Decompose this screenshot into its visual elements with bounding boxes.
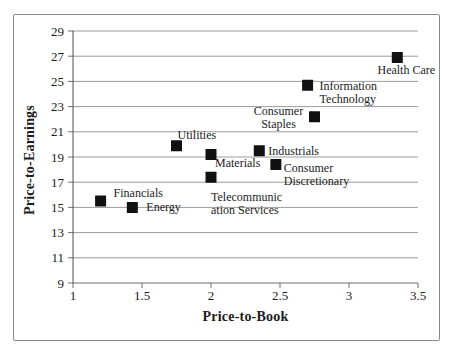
data-point-health-care [392, 52, 403, 63]
data-label-consumer-staples: Staples [261, 117, 296, 131]
x-tick-label: 3.5 [410, 288, 426, 303]
y-axis-title: Price-to-Earnings [22, 105, 38, 215]
x-tick-label: 3 [346, 288, 353, 303]
data-point-consumer-staples [309, 111, 320, 122]
data-label-consumer-discretionary: Consumer [284, 161, 333, 175]
data-label-energy: Energy [146, 200, 180, 214]
data-point-utilities [171, 140, 182, 151]
data-label-information-technology: Information [320, 79, 377, 93]
data-point-information-technology [302, 80, 313, 91]
y-tick-label: 15 [51, 200, 64, 215]
x-tick-label: 1 [70, 288, 77, 303]
data-point-financials [95, 196, 106, 207]
y-tick-label: 17 [51, 175, 65, 190]
data-label-consumer-discretionary: Discretionary [284, 174, 349, 188]
data-label-telecommunication-services: Telecommunic [211, 190, 282, 204]
y-tick-label: 25 [51, 74, 64, 89]
data-point-consumer-discretionary [270, 159, 281, 170]
x-tick-label: 2.5 [272, 288, 288, 303]
data-label-consumer-staples: Consumer [254, 104, 303, 118]
data-label-financials: Financials [114, 186, 164, 200]
data-label-telecommunication-services: ation Services [211, 203, 279, 217]
chart-frame: 91113151719212325272911.522.533.5Financi… [13, 14, 440, 341]
chart-canvas: 91113151719212325272911.522.533.5Financi… [0, 0, 452, 356]
y-tick-label: 21 [51, 124, 64, 139]
x-axis-title: Price-to-Book [73, 309, 418, 325]
y-tick-label: 27 [51, 49, 65, 64]
data-point-industrials [254, 145, 265, 156]
y-tick-label: 11 [51, 250, 64, 265]
y-tick-label: 19 [51, 150, 64, 165]
data-label-utilities: Utilities [178, 128, 217, 142]
y-tick-label: 9 [58, 276, 65, 291]
data-point-energy [127, 202, 138, 213]
y-tick-label: 29 [51, 24, 64, 39]
data-label-information-technology: Technology [320, 92, 376, 106]
data-point-telecommunication-services [206, 172, 217, 183]
scatter-chart: 91113151719212325272911.522.533.5Financi… [14, 15, 439, 340]
x-tick-label: 1.5 [134, 288, 150, 303]
y-tick-label: 13 [51, 225, 64, 240]
y-tick-label: 23 [51, 99, 64, 114]
data-label-industrials: Industrials [268, 144, 319, 158]
data-label-health-care: Health Care [377, 63, 435, 77]
data-label-materials: Materials [215, 156, 261, 170]
x-tick-label: 2 [208, 288, 215, 303]
